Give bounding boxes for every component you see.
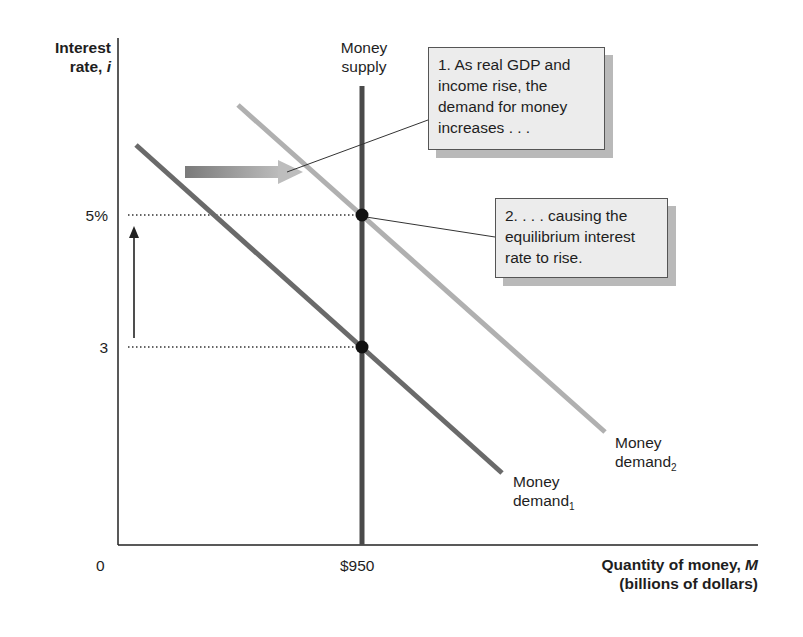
callout-1-leader (287, 120, 428, 172)
y-axis-label-line2: rate, i (18, 57, 111, 76)
callout-demand-increase: 1. As real GDP and income rise, the dema… (428, 47, 605, 150)
initial-equilibrium-point (356, 341, 369, 354)
x-axis-label: Quantity of money, M (billions of dollar… (480, 555, 758, 593)
money-demand-2-label: Money demand2 (615, 433, 677, 477)
x-axis-label-line1: Quantity of money, M (480, 555, 758, 574)
money-market-chart (0, 0, 803, 637)
y-axis-label-line1: Interest (18, 38, 111, 57)
x-axis-label-line2: (billions of dollars) (480, 574, 758, 593)
rate-rise-arrow (129, 226, 139, 338)
money-demand-1-label: Money demand1 (513, 472, 575, 516)
money-demand-1-curve (136, 145, 502, 473)
x-tick-950: $950 (340, 556, 374, 575)
y-tick-5: 5% (60, 206, 108, 225)
origin-label: 0 (96, 556, 105, 575)
demand-shift-arrow (185, 160, 303, 184)
y-tick-3: 3 (60, 338, 108, 357)
callout-rate-rise: 2. . . . causing the equilibrium interes… (495, 198, 668, 278)
new-equilibrium-point (356, 209, 369, 222)
money-supply-label: Money supply (334, 38, 394, 76)
y-axis-label: Interest rate, i (18, 38, 111, 76)
